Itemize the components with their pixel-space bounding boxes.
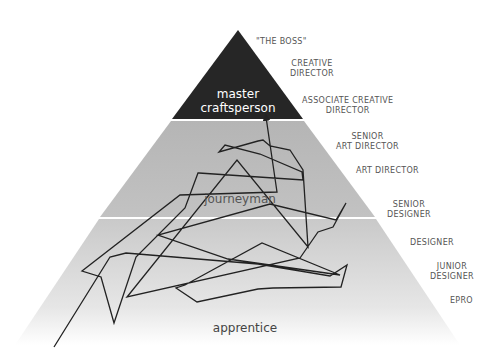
role-line: DESIGNER	[410, 238, 454, 248]
role-line: ART DIRECTOR	[356, 166, 419, 176]
role-line: CREATIVE	[290, 59, 334, 69]
role-designer: DESIGNER	[410, 238, 454, 248]
role-line: ASSOCIATE CREATIVE	[302, 96, 393, 106]
role-line: EPRO	[450, 296, 473, 306]
role-line: DESIGNER	[387, 210, 431, 220]
role-line: SENIOR	[336, 132, 399, 142]
role-line: ART DIRECTOR	[336, 142, 399, 152]
tier-master-line2: craftsperson	[196, 101, 280, 115]
role-senior-designer: SENIOR DESIGNER	[387, 200, 431, 220]
role-line: DIRECTOR	[290, 69, 334, 79]
role-line: JUNIOR	[430, 262, 474, 272]
role-line: SENIOR	[387, 200, 431, 210]
role-line: DIRECTOR	[302, 106, 393, 116]
role-epro: EPRO	[450, 296, 473, 306]
tier-master-label: master craftsperson	[196, 87, 280, 115]
role-senior-art-director: SENIOR ART DIRECTOR	[336, 132, 399, 152]
role-line: DESIGNER	[430, 272, 474, 282]
tier-master-line1: master	[196, 87, 280, 101]
role-junior-designer: JUNIOR DESIGNER	[430, 262, 474, 282]
role-art-director: ART DIRECTOR	[356, 166, 419, 176]
role-creative-director: CREATIVE DIRECTOR	[290, 59, 334, 79]
career-pyramid	[0, 0, 501, 362]
role-the-boss: "THE BOSS"	[256, 37, 307, 47]
tier-apprentice-label: apprentice	[200, 321, 290, 335]
role-line: "THE BOSS"	[256, 37, 307, 47]
tier-journeyman-label: journeyman	[190, 192, 290, 206]
role-associate-creative-director: ASSOCIATE CREATIVE DIRECTOR	[302, 96, 393, 116]
